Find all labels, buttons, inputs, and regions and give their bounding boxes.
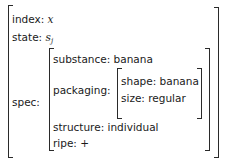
substance-label: substance: bbox=[53, 53, 110, 65]
size-value: regular bbox=[148, 92, 186, 104]
ripe-label: ripe: bbox=[53, 137, 77, 149]
spec-label: spec: bbox=[12, 96, 40, 108]
size-label: size: bbox=[121, 92, 145, 104]
index-value: x bbox=[48, 13, 54, 25]
structure-value: individual bbox=[108, 121, 159, 133]
outer-right-bracket bbox=[214, 7, 219, 158]
state-value-subscript: j bbox=[51, 37, 53, 45]
shape-row: shape: banana bbox=[121, 75, 199, 87]
ripe-value: + bbox=[80, 137, 89, 149]
state-value: sj bbox=[45, 31, 53, 43]
index-label: index: bbox=[12, 13, 44, 25]
index-row: index: x bbox=[12, 13, 54, 25]
substance-row: substance: banana bbox=[53, 53, 153, 65]
state-row: state: sj bbox=[12, 31, 53, 47]
substance-value: banana bbox=[114, 53, 153, 65]
outer-left-bracket bbox=[8, 5, 13, 158]
packaging-label: packaging: bbox=[53, 84, 111, 96]
spec-right-bracket bbox=[205, 48, 210, 151]
size-row: size: regular bbox=[121, 92, 186, 104]
shape-label: shape: bbox=[121, 75, 156, 87]
ripe-row: ripe: + bbox=[53, 137, 89, 149]
structure-label: structure: bbox=[53, 121, 104, 133]
structure-row: structure: individual bbox=[53, 121, 159, 133]
state-label: state: bbox=[12, 31, 42, 43]
shape-value: banana bbox=[160, 75, 199, 87]
